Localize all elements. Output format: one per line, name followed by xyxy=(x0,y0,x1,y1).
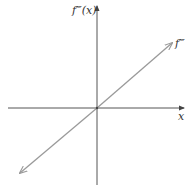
y-axis-label: f‴(x) xyxy=(71,4,97,17)
graph-canvas: f‴(x) x f‴ xyxy=(0,0,190,185)
curve-label: f‴ xyxy=(174,37,185,50)
f-triple-prime-line-lower xyxy=(20,108,97,173)
f-triple-prime-line xyxy=(97,43,172,108)
origin-point xyxy=(96,107,98,109)
x-axis-label: x xyxy=(178,110,185,123)
